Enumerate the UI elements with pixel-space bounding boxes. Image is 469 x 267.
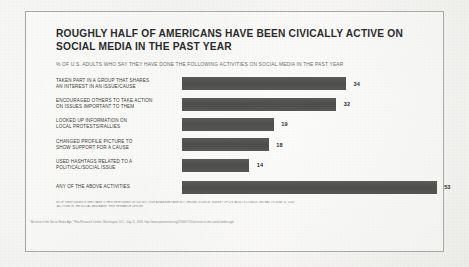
- chart-source-note: NOTE: RESPONDENTS WHO GAVE OTHER RESPONS…: [56, 201, 386, 209]
- bar-value-label: 14: [257, 162, 263, 168]
- chart-title: ROUGHLY HALF OF AMERICANS HAVE BEEN CIVI…: [56, 28, 411, 53]
- bar-chart-plot-area: TAKEN PART IN A GROUP THAT SHARES AN INT…: [56, 77, 427, 194]
- bar-fill: [182, 181, 437, 194]
- bar-category-label: ANY OF THE ABOVE ACTIVITIES: [56, 184, 182, 190]
- bar-row: TAKEN PART IN A GROUP THAT SHARES AN INT…: [56, 77, 427, 90]
- bar-label-line1: ANY OF THE ABOVE ACTIVITIES: [56, 184, 176, 190]
- chart-frame: ROUGHLY HALF OF AMERICANS HAVE BEEN CIVI…: [25, 11, 444, 252]
- chart-subtitle: % OF U.S. ADULTS WHO SAY THEY HAVE DONE …: [56, 61, 427, 68]
- bar-fill: [182, 159, 249, 172]
- bar-track: 32: [182, 98, 427, 111]
- bar-row: USED HASHTAGS RELATED TO A POLITICAL/SOC…: [56, 159, 427, 172]
- bar-fill: [182, 77, 346, 90]
- bar-value-label: 53: [444, 184, 450, 190]
- bar-value-label: 19: [281, 121, 287, 127]
- bar-row: ANY OF THE ABOVE ACTIVITIES 53: [56, 181, 427, 194]
- bar-track: 14: [182, 159, 427, 172]
- bar-category-label: TAKEN PART IN A GROUP THAT SHARES AN INT…: [56, 78, 182, 90]
- bar-row: LOOKED UP INFORMATION ON LOCAL PROTESTS/…: [56, 118, 427, 131]
- bar-track: 34: [182, 77, 427, 90]
- bar-row: ENCOURAGED OTHERS TO TAKE ACTION ON ISSU…: [56, 98, 427, 111]
- bar-row: CHANGED PROFILE PICTURE TO SHOW SUPPORT …: [56, 138, 427, 151]
- bar-label-line2: LOCAL PROTESTS/RALLIES: [56, 124, 176, 130]
- bar-label-line2: POLITICAL/SOCIAL ISSUE: [56, 165, 176, 171]
- chart-citation: "Activism in the Social Media Age," Pew …: [30, 221, 234, 225]
- bar-category-label: CHANGED PROFILE PICTURE TO SHOW SUPPORT …: [56, 139, 182, 151]
- bar-category-label: USED HASHTAGS RELATED TO A POLITICAL/SOC…: [56, 159, 182, 171]
- bar-value-label: 32: [344, 101, 350, 107]
- chart-content: ROUGHLY HALF OF AMERICANS HAVE BEEN CIVI…: [56, 28, 427, 243]
- bar-track: 18: [182, 138, 427, 151]
- bar-track: 19: [182, 118, 427, 131]
- bar-label-line2: SHOW SUPPORT FOR A CAUSE: [56, 145, 176, 151]
- bar-value-label: 34: [354, 81, 360, 87]
- bar-track: 53: [182, 181, 427, 194]
- bar-label-line2: ON ISSUES IMPORTANT TO THEM: [56, 104, 176, 110]
- bar-category-label: LOOKED UP INFORMATION ON LOCAL PROTESTS/…: [56, 118, 182, 130]
- bar-category-label: ENCOURAGED OTHERS TO TAKE ACTION ON ISSU…: [56, 98, 182, 110]
- bar-fill: [182, 118, 274, 131]
- source-note-line2: "ACTIVISM IN THE SOCIAL MEDIA AGE" PEW R…: [56, 205, 386, 209]
- bar-value-label: 18: [276, 142, 282, 148]
- bar-fill: [182, 98, 336, 111]
- bar-label-line2: AN INTEREST IN AN ISSUE/CAUSE: [56, 84, 176, 90]
- bar-fill: [182, 138, 269, 151]
